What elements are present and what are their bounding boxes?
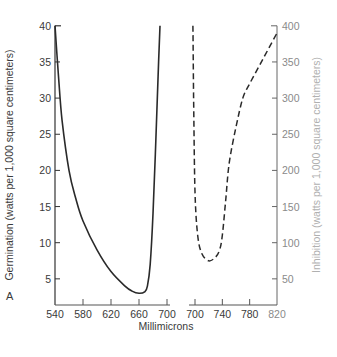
y-axis-right-title: Inhibition (watts per 1,000 square centi…: [310, 57, 322, 273]
x-tick-label: 620: [102, 308, 120, 320]
y-tick-label-right: 300: [282, 92, 300, 104]
x-axis-title: Millimicrons: [139, 320, 194, 332]
x-tick-label: 820: [268, 308, 286, 320]
x-tick-label: 580: [74, 308, 92, 320]
y-tick-label-right: 200: [282, 164, 300, 176]
inhibition-curve: [193, 26, 277, 261]
y-tick-label-left: 5: [45, 273, 51, 285]
chart: 5101520253035405010015020025030035040054…: [0, 0, 337, 357]
y-tick-label-right: 400: [282, 20, 300, 32]
y-tick-label-right: 250: [282, 128, 300, 140]
y-tick-label-right: 100: [282, 237, 300, 249]
y-tick-label-left: 30: [39, 92, 51, 104]
x-tick-label: 540: [46, 308, 64, 320]
y-tick-label-right: 150: [282, 201, 300, 213]
x-tick-label: 660: [130, 308, 148, 320]
y-axis-left-title: Germination (watts per 1,000 square cent…: [3, 49, 15, 280]
x-tick-label: 780: [241, 308, 259, 320]
y-tick-label-right: 350: [282, 56, 300, 68]
x-tick-label: 700: [186, 308, 204, 320]
y-tick-label-right: 50: [282, 273, 294, 285]
y-tick-label-left: 40: [39, 20, 51, 32]
y-tick-label-left: 15: [39, 201, 51, 213]
x-tick-label: 700: [158, 308, 176, 320]
y-tick-label-left: 20: [39, 164, 51, 176]
y-tick-label-left: 35: [39, 56, 51, 68]
x-tick-label: 740: [214, 308, 232, 320]
y-tick-label-left: 10: [39, 237, 51, 249]
curves: [55, 26, 277, 294]
y-tick-label-left: 25: [39, 128, 51, 140]
germination-curve: [55, 26, 160, 294]
panel-label: A: [6, 290, 14, 302]
